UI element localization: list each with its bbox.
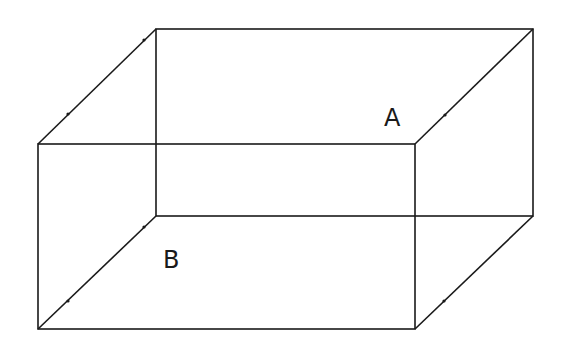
edge-bottom-left bbox=[38, 216, 156, 329]
edge-bottom-right bbox=[415, 216, 533, 329]
label-a: A bbox=[384, 104, 401, 132]
front-face bbox=[38, 144, 415, 329]
edge-dot bbox=[442, 299, 445, 302]
edge-dot bbox=[142, 38, 145, 41]
edge-dot bbox=[66, 112, 69, 115]
back-face bbox=[156, 29, 533, 216]
cuboid-diagram: A B bbox=[0, 0, 561, 351]
edge-dot bbox=[66, 299, 69, 302]
edge-top-left bbox=[38, 29, 156, 144]
edge-top-right bbox=[415, 29, 533, 144]
label-b: B bbox=[163, 246, 179, 274]
edge-dot bbox=[443, 113, 446, 116]
edge-dot bbox=[142, 225, 145, 228]
